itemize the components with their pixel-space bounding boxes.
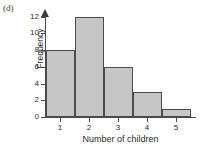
chart-screenshot: (d) 12 10 8 6 4 2 0 (0, 0, 204, 150)
y-axis-title: Frequency (36, 21, 45, 77)
bar-3 (104, 67, 133, 117)
x-tick-label-2: 2 (81, 123, 97, 132)
y-tick-label-2: 2 (23, 96, 39, 104)
y-tick-mark (41, 84, 45, 85)
x-tick-label-1: 1 (52, 123, 68, 132)
x-tick-mark (118, 118, 119, 122)
bar-1 (46, 50, 75, 117)
histogram-plot-area: 12 10 8 6 4 2 0 1 (0, 0, 204, 150)
x-tick-mark (89, 118, 90, 122)
x-axis-title: Number of children (45, 134, 196, 144)
x-tick-label-3: 3 (110, 123, 126, 132)
x-tick-label-4: 4 (139, 123, 155, 132)
x-tick-mark (176, 118, 177, 122)
x-tick-mark (147, 118, 148, 122)
y-axis-arrow-icon (41, 9, 49, 17)
y-tick-mark (41, 17, 45, 18)
x-tick-label-5: 5 (168, 123, 184, 132)
x-tick-mark (60, 118, 61, 122)
y-tick-mark (41, 117, 45, 118)
y-tick-mark (41, 100, 45, 101)
y-tick-label-0: 0 (23, 113, 39, 121)
x-axis-line (45, 117, 196, 118)
y-tick-label-4: 4 (23, 80, 39, 88)
bar-4 (133, 92, 162, 117)
bar-5 (162, 109, 191, 117)
bar-2 (75, 17, 104, 117)
